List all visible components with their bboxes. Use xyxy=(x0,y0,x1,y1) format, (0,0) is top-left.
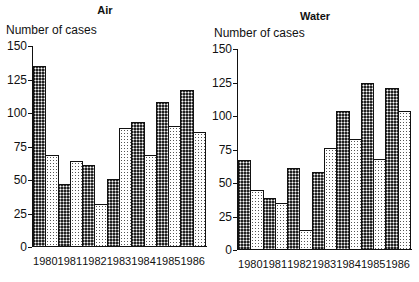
air-chart-panel: Air Number of cases 02550751001251501980… xyxy=(0,0,210,282)
x-tick-label: 1985 xyxy=(361,258,386,270)
bar xyxy=(336,111,349,250)
y-tick xyxy=(233,49,237,50)
bar xyxy=(312,172,325,250)
x-tick-label: 1982 xyxy=(287,258,312,270)
bar xyxy=(144,155,157,247)
y-tick xyxy=(28,46,32,47)
y-axis-label: Number of cases xyxy=(214,26,305,40)
bar xyxy=(361,83,374,251)
chart-title: Water xyxy=(290,10,340,22)
y-tick-label: 50 xyxy=(1,173,27,187)
y-tick-label: 25 xyxy=(1,207,27,221)
chart-title: Air xyxy=(85,4,125,16)
bar xyxy=(287,168,300,250)
x-tick-label: 1986 xyxy=(180,255,205,267)
y-tick-label: 125 xyxy=(206,76,232,90)
x-tick-label: 1983 xyxy=(107,255,132,267)
x-tick-label: 1980 xyxy=(238,258,263,270)
bar xyxy=(373,159,386,250)
bar xyxy=(131,122,144,247)
y-tick xyxy=(28,80,32,81)
x-tick-label: 1986 xyxy=(385,258,410,270)
y-tick-label: 0 xyxy=(206,243,232,257)
x-tick-label: 1984 xyxy=(131,255,156,267)
x-tick-label: 1982 xyxy=(82,255,107,267)
y-tick-label: 150 xyxy=(1,39,27,53)
bar xyxy=(45,155,58,247)
y-tick xyxy=(28,113,32,114)
y-tick xyxy=(233,183,237,184)
plot-area: 0255075100125150198019811982198319841985… xyxy=(237,49,412,250)
y-tick xyxy=(28,214,32,215)
y-tick xyxy=(28,147,32,148)
bar xyxy=(107,179,120,247)
y-tick-label: 100 xyxy=(1,106,27,120)
bar xyxy=(33,66,46,247)
x-tick-label: 1983 xyxy=(312,258,337,270)
y-tick-label: 100 xyxy=(206,109,232,123)
plot-area: 0255075100125150198019811982198319841985… xyxy=(32,46,207,247)
x-tick-label: 1984 xyxy=(336,258,361,270)
y-tick-label: 0 xyxy=(1,240,27,254)
y-tick xyxy=(233,150,237,151)
y-tick xyxy=(28,247,32,248)
y-tick xyxy=(233,217,237,218)
bar xyxy=(94,204,107,247)
y-tick xyxy=(233,83,237,84)
bar xyxy=(324,148,337,250)
y-tick-label: 150 xyxy=(206,42,232,56)
bar xyxy=(82,165,95,247)
bar xyxy=(250,190,263,250)
y-tick-label: 125 xyxy=(1,73,27,87)
y-axis-label: Number of cases xyxy=(6,23,97,37)
x-tick-label: 1981 xyxy=(262,258,287,270)
bar xyxy=(168,126,181,247)
bar xyxy=(238,160,251,250)
water-chart-panel: Water Number of cases 025507510012515019… xyxy=(210,0,419,282)
bar xyxy=(70,161,83,247)
bar xyxy=(119,128,132,247)
bar xyxy=(385,88,398,250)
y-tick-label: 75 xyxy=(206,143,232,157)
y-tick xyxy=(233,116,237,117)
bar xyxy=(275,203,288,250)
bar xyxy=(299,230,312,250)
bar xyxy=(349,139,362,250)
bar xyxy=(193,132,206,247)
x-tick-label: 1981 xyxy=(57,255,82,267)
bar xyxy=(263,198,276,250)
x-tick-label: 1985 xyxy=(156,255,181,267)
bar xyxy=(180,90,193,247)
y-tick-label: 75 xyxy=(1,140,27,154)
bar xyxy=(58,184,71,247)
bar xyxy=(156,102,169,247)
bar xyxy=(398,111,411,250)
x-tick-label: 1980 xyxy=(33,255,58,267)
y-tick xyxy=(233,250,237,251)
y-tick xyxy=(28,180,32,181)
y-tick-label: 50 xyxy=(206,176,232,190)
y-tick-label: 25 xyxy=(206,210,232,224)
